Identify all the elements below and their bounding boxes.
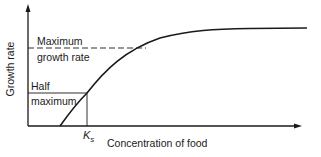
y-axis-label: Growth rate bbox=[4, 42, 16, 97]
x-axis-arrow-icon bbox=[294, 124, 302, 129]
ks-subscript: s bbox=[90, 135, 94, 144]
max-growth-label-line2: growth rate bbox=[37, 51, 90, 63]
half-max-label-line2: maximum bbox=[31, 95, 77, 107]
ks-label: Ks bbox=[83, 129, 94, 146]
growth-curve bbox=[60, 28, 307, 126]
half-max-label-line1: Half bbox=[31, 80, 50, 92]
y-axis-arrow-icon bbox=[26, 4, 31, 12]
max-growth-label-line1: Maximum bbox=[37, 35, 83, 47]
growth-chart bbox=[0, 0, 321, 157]
x-axis-label: Concentration of food bbox=[107, 137, 207, 149]
